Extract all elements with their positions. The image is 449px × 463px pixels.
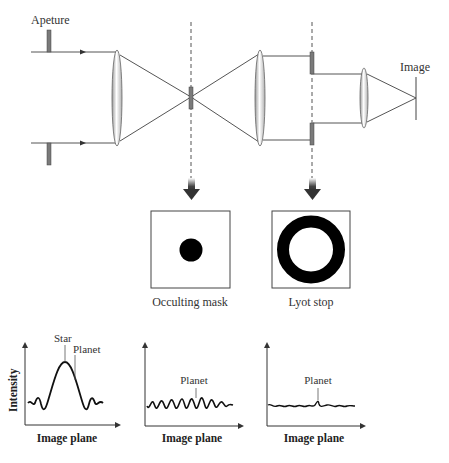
intensity-axis-label: Intensity xyxy=(7,368,20,412)
star-psf-curve xyxy=(28,362,103,409)
occulting-mask-dot xyxy=(180,239,203,262)
image-plane-axis-label: Image plane xyxy=(37,432,97,445)
lens-3 xyxy=(360,68,368,128)
beam-arrow-icon xyxy=(80,141,86,146)
lens-1 xyxy=(112,50,122,146)
coronagraph-diagram: Apeture Image xyxy=(0,0,449,463)
aperture-label: Apeture xyxy=(31,13,70,27)
image-rays xyxy=(367,74,416,122)
lyot-stop-label: Lyot stop xyxy=(288,295,333,309)
planet-annotation: Planet xyxy=(304,374,332,386)
aperture-bottom xyxy=(47,143,51,165)
down-arrow-icon xyxy=(304,178,321,200)
star-annotation: Star xyxy=(54,332,72,344)
incoming-beams xyxy=(31,52,117,143)
image-plane-axis-label: Image plane xyxy=(162,432,222,445)
occulting-mask-plate xyxy=(189,87,193,109)
residual-curve xyxy=(147,398,233,408)
down-arrow-icon xyxy=(183,178,200,200)
beam-arrow-icon xyxy=(80,50,86,55)
image-plane-axis-label: Image plane xyxy=(284,432,344,445)
lens-2 xyxy=(255,50,265,146)
planet-annotation: Planet xyxy=(180,374,208,386)
planet-annotation: Planet xyxy=(73,343,101,355)
image-label: Image xyxy=(400,60,430,74)
plot-1: Star Planet Intensity Image plane xyxy=(7,332,118,445)
residual-curve xyxy=(268,401,355,406)
lyot-stop-top-plate xyxy=(310,52,314,74)
plot-2: Planet Image plane xyxy=(145,345,241,445)
lyot-stop-bottom-plate xyxy=(310,123,314,145)
aperture-top xyxy=(47,30,51,52)
occulting-mask-label: Occulting mask xyxy=(152,295,228,309)
plot-3: Planet Image plane xyxy=(267,345,363,445)
